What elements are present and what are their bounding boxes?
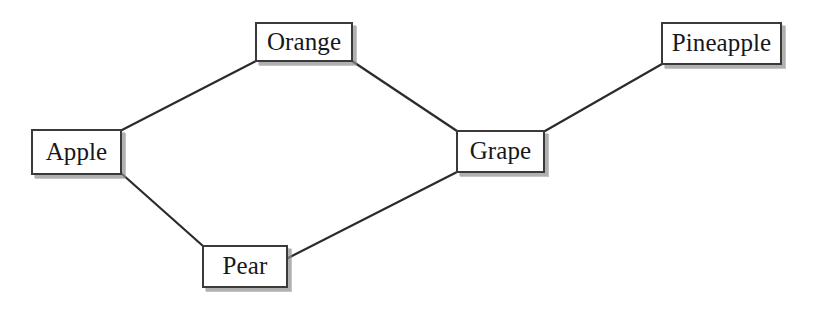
node-pineapple-label: Pineapple xyxy=(672,30,771,57)
node-grape[interactable]: Grape xyxy=(456,130,545,173)
edge-group xyxy=(122,61,662,258)
edge-apple-pear xyxy=(122,174,203,246)
node-orange[interactable]: Orange xyxy=(255,22,353,62)
node-apple-label: Apple xyxy=(46,139,108,166)
edge-pear-grape xyxy=(288,172,457,258)
node-orange-label: Orange xyxy=(267,29,341,56)
node-apple[interactable]: Apple xyxy=(31,129,122,175)
node-pear-label: Pear xyxy=(223,253,268,280)
node-pineapple[interactable]: Pineapple xyxy=(661,22,782,65)
node-grape-label: Grape xyxy=(470,138,532,165)
edge-grape-pineapple xyxy=(545,64,662,131)
node-pear[interactable]: Pear xyxy=(202,245,288,288)
edge-apple-orange xyxy=(122,61,256,130)
edge-orange-grape xyxy=(352,61,457,131)
diagram-canvas: Apple Orange Pear Grape Pineapple xyxy=(0,0,815,309)
